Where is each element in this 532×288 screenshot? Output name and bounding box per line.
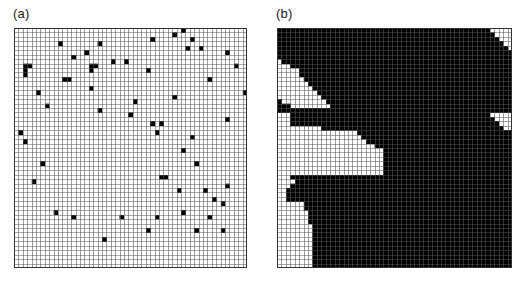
panel-b-label: (b) (276, 6, 293, 21)
panel-b-grid-canvas (277, 28, 512, 268)
panel-a-grid-canvas (14, 28, 247, 268)
panel-a-label: (a) (13, 6, 30, 21)
panel-a-grid (14, 28, 247, 268)
figure-root: (a) (b) (0, 0, 532, 288)
panel-b-grid (277, 28, 512, 268)
